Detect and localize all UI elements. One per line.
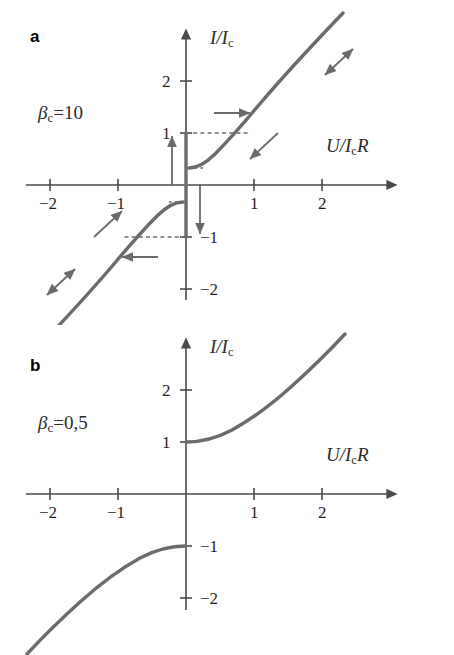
panel-b-ytick-neg2: −2 xyxy=(200,590,218,607)
panel-b-xtick-pos1: 1 xyxy=(250,504,259,521)
panel-a-xtick-neg1: −1 xyxy=(107,195,125,212)
panel-a-ytick-pos1: 1 xyxy=(162,125,171,142)
panel-a-beta-label: βc=10 xyxy=(38,103,83,125)
panel-b-letter: b xyxy=(30,357,40,374)
beta-value: 0,5 xyxy=(64,412,88,433)
xlabel-post: R xyxy=(357,135,369,156)
arrow-down-left-icon xyxy=(250,133,278,159)
ylabel-sub: c xyxy=(228,345,234,359)
panel-a-ytick-neg1: −1 xyxy=(200,229,218,246)
ylabel-sub: c xyxy=(228,36,234,50)
panel-b-xlabel: U/IcR xyxy=(326,445,369,466)
xlabel-post: R xyxy=(357,444,369,465)
arrow-double-upper-icon xyxy=(325,49,353,75)
panel-b-xtick-neg2: −2 xyxy=(39,504,57,521)
panel-a-letter: a xyxy=(30,28,39,45)
arrow-double-lower-icon xyxy=(47,269,75,295)
panel-b-axes xyxy=(26,347,388,610)
xlabel-pre: U/I xyxy=(326,135,351,156)
panel-a-xtick-pos2: 2 xyxy=(318,195,327,212)
beta-value: 10 xyxy=(64,102,83,123)
panel-a-ytick-pos2: 2 xyxy=(162,73,171,90)
ylabel-main: I/I xyxy=(210,27,228,48)
panel-a: a βc=10 I/Ic U/IcR −2 −1 1 2 2 1 −1 −2 xyxy=(0,0,454,325)
panel-b-ytick-pos2: 2 xyxy=(162,382,171,399)
panel-b-ytick-neg1: −1 xyxy=(200,538,218,555)
panel-b-beta-label: βc=0,5 xyxy=(38,413,88,435)
arrow-up-right-icon xyxy=(94,211,122,237)
panel-a-xtick-pos1: 1 xyxy=(250,195,259,212)
beta-equals: = xyxy=(53,412,64,433)
panel-a-axes xyxy=(26,38,388,300)
panel-a-xtick-neg2: −2 xyxy=(39,195,57,212)
panel-b-plot xyxy=(0,325,454,655)
beta-equals: = xyxy=(53,102,64,123)
xlabel-pre: U/I xyxy=(326,444,351,465)
panel-b-iv-curve-negative xyxy=(27,546,186,654)
panel-a-ytick-neg2: −2 xyxy=(200,281,218,298)
panel-b-xtick-pos2: 2 xyxy=(318,504,327,521)
panel-b-ytick-pos1: 1 xyxy=(162,434,171,451)
panel-b: b βc=0,5 I/Ic U/IcR −2 −1 1 2 2 1 −1 −2 xyxy=(0,325,454,655)
panel-a-ylabel: I/Ic xyxy=(210,28,234,49)
panel-a-resistive-branch-negative xyxy=(29,202,183,325)
panel-b-xtick-neg1: −1 xyxy=(107,504,125,521)
panel-b-ylabel: I/Ic xyxy=(210,337,234,358)
panel-a-direction-arrows xyxy=(47,49,353,295)
panel-a-xlabel: U/IcR xyxy=(326,136,369,157)
ylabel-main: I/I xyxy=(210,336,228,357)
figure-iv-characteristics: a βc=10 I/Ic U/IcR −2 −1 1 2 2 1 −1 −2 xyxy=(0,0,454,655)
